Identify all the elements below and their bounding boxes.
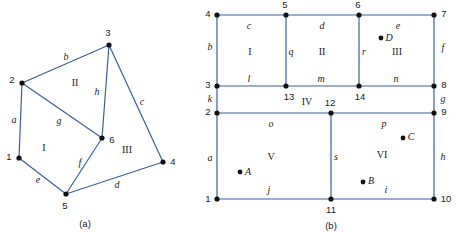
- figure-container: abcdefgh123456IIIIIIabcdefghijklmnopqrs1…: [0, 0, 456, 233]
- panel-a-face-label-II: II: [72, 78, 79, 88]
- panel-b-node-label-13: 13: [284, 92, 295, 102]
- panel-a-edge-label-c: c: [140, 97, 144, 107]
- panel-a-edge-label-a: a: [12, 115, 17, 125]
- panel-a-node-1: [16, 155, 21, 160]
- panel-b-node-7: [431, 12, 436, 17]
- panel-a-edge-label-g: g: [57, 116, 62, 126]
- panel-b-edge-label-p: p: [382, 119, 387, 129]
- panel-b-point-C: [401, 136, 406, 141]
- panel-a-node-label-1: 1: [6, 152, 11, 162]
- panel-b-edge-label-q: q: [289, 47, 294, 57]
- panel-b-node-label-12: 12: [325, 98, 336, 108]
- panel-a-node-label-5: 5: [62, 201, 67, 211]
- panel-a-edge-e: [19, 158, 66, 194]
- panel-b-edge-label-o: o: [269, 119, 274, 129]
- panel-b-node-label-6: 6: [355, 0, 360, 10]
- panel-b-node-label-9: 9: [441, 107, 446, 117]
- panel-b-edge-label-a: a: [208, 153, 213, 163]
- panel-b-node-8: [431, 83, 436, 88]
- panel-a-edge-label-h: h: [95, 87, 100, 97]
- panel-b-edge-label-n: n: [394, 74, 399, 84]
- panel-a-edge-label-b: b: [64, 52, 69, 62]
- panel-b-node-13: [283, 83, 288, 88]
- panel-b-node-10: [431, 196, 436, 201]
- panel-b-node-label-10: 10: [441, 194, 452, 204]
- panel-b-node-label-8: 8: [441, 80, 446, 90]
- panel-b-edge-label-l: l: [248, 74, 251, 84]
- panel-b-face-label-II: II: [319, 47, 326, 57]
- panel-a-edge-label-e: e: [36, 175, 40, 185]
- panel-b-edge-label-g: g: [441, 94, 446, 104]
- panel-a-node-5: [63, 191, 68, 196]
- panel-a-face-label-I: I: [42, 143, 45, 153]
- panel-b-node-5: [283, 12, 288, 17]
- panel-b-edge-label-c: c: [247, 21, 251, 31]
- panel-b-point-label-C: C: [408, 132, 415, 142]
- panel-b-node-label-11: 11: [326, 205, 336, 215]
- panel-b-point-label-B: B: [368, 176, 374, 186]
- panel-b-face-label-III: III: [392, 47, 402, 57]
- panel-a-edge-g: [22, 83, 102, 138]
- panel-b-edge-label-s: s: [334, 152, 338, 162]
- panel-a-node-label-2: 2: [9, 75, 14, 85]
- panel-b-face-label-VI: VI: [377, 150, 388, 160]
- panel-b-face-label-I: I: [248, 47, 251, 57]
- panel-b-face-label-V: V: [267, 152, 274, 162]
- panel-b-node-label-4: 4: [205, 9, 210, 19]
- panel-b-point-D: [379, 36, 384, 41]
- panel-a-node-4: [160, 159, 165, 164]
- panel-b-node-1: [214, 196, 219, 201]
- panel-b-node-label-3: 3: [205, 80, 210, 90]
- panel-b-node-label-2: 2: [205, 107, 210, 117]
- panel-a-node-label-6: 6: [109, 135, 114, 145]
- panel-a-node-6: [99, 135, 104, 140]
- panel-b-point-B: [361, 180, 366, 185]
- panel-b-edge-label-d: d: [320, 21, 325, 31]
- panel-b-node-label-7: 7: [441, 9, 446, 19]
- panel-a-edge-h: [102, 45, 109, 138]
- panel-b-node-label-5: 5: [282, 0, 287, 10]
- panel-a-node-3: [106, 42, 111, 47]
- panel-b-edge-label-k: k: [208, 94, 212, 104]
- panel-a-edge-label-d: d: [115, 180, 120, 190]
- panel-a-edge-f: [66, 138, 102, 194]
- panel-a-edge-a: [19, 83, 22, 158]
- panel-b-node-label-1: 1: [205, 194, 210, 204]
- panel-b-edge-label-i: i: [385, 185, 388, 195]
- panel-b-node-2: [214, 110, 219, 115]
- panel-b-edge-label-j: j: [268, 185, 271, 195]
- panel-a-edges: [19, 45, 163, 194]
- panel-b-node-12: [328, 110, 333, 115]
- panel-b-node-11: [328, 196, 333, 201]
- panel-b-edge-label-f: f: [442, 43, 445, 53]
- panel-b-edge-label-e: e: [396, 21, 400, 31]
- panel-a-node-label-3: 3: [105, 28, 110, 38]
- panel-a-node-label-4: 4: [170, 157, 175, 167]
- panel-b-points: [238, 36, 406, 185]
- panel-b-edge-label-b: b: [208, 42, 213, 52]
- panel-b-edge-label-h: h: [441, 152, 446, 162]
- caption-panel-a: (a): [79, 219, 91, 229]
- panel-a-edge-c: [109, 45, 163, 162]
- panel-b-node-label-14: 14: [355, 92, 366, 102]
- panel-b-point-label-A: A: [245, 167, 251, 177]
- panel-a-face-label-III: III: [122, 145, 132, 155]
- panel-b-node-4: [214, 12, 219, 17]
- panel-b-node-9: [431, 110, 436, 115]
- caption-panel-b: (b): [325, 221, 337, 231]
- panel-b-point-label-D: D: [385, 33, 392, 43]
- panel-a-edge-label-f: f: [79, 158, 82, 168]
- panel-b-point-A: [238, 170, 243, 175]
- panel-b-edge-label-m: m: [317, 74, 324, 84]
- panel-b-node-14: [356, 83, 361, 88]
- panel-b-face-label-IV: IV: [302, 97, 313, 107]
- panel-a-node-2: [19, 80, 24, 85]
- panel-b-node-6: [356, 12, 361, 17]
- panel-b-node-3: [214, 83, 219, 88]
- panel-b-edge-label-r: r: [362, 47, 366, 57]
